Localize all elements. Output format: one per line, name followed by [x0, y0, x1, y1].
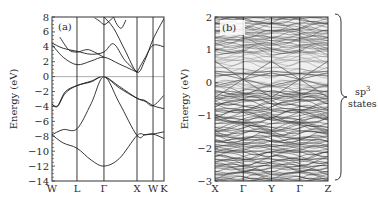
band-line [215, 12, 328, 15]
panel-a-kpoint-lines [77, 17, 153, 181]
kpoint-label: Γ [240, 183, 247, 194]
panel-a-y-ticks: 86420−2−4−6−8−10−12−14 [28, 12, 55, 187]
panel-b-band-structure: 210−1−2−3 XΓYΓZ (b) Energy (eV) [179, 12, 332, 195]
kpoint-label: K [160, 183, 168, 194]
band-line [114, 17, 126, 28]
kpoint-label: X [211, 183, 219, 194]
panel-a-y-axis-title: Energy (eV) [8, 69, 19, 130]
y-tick-label: 1 [206, 44, 212, 55]
kpoint-label: Γ [100, 183, 107, 194]
sp3-label: sp3 [355, 85, 370, 97]
y-tick-label: −2 [197, 143, 212, 154]
y-tick-label: −3 [197, 176, 212, 187]
panel-a-bands [52, 17, 164, 166]
y-tick-label: −12 [28, 161, 49, 172]
y-tick-label: 2 [206, 12, 212, 23]
y-tick-label: −1 [197, 110, 212, 121]
panel-a-kpoint-labels: WLΓXWK [47, 183, 168, 194]
y-tick-label: 6 [43, 26, 49, 37]
y-tick-label: −14 [28, 176, 49, 187]
panel-b-y-axis-title: Energy (eV) [179, 69, 190, 130]
y-tick-label: 8 [43, 12, 49, 23]
panel-a-label: (a) [58, 21, 72, 32]
kpoint-label: W [148, 183, 159, 194]
y-tick-label: −10 [28, 146, 49, 157]
kpoint-label: L [74, 183, 81, 194]
curly-brace [335, 14, 347, 180]
y-tick-label: −8 [34, 131, 49, 142]
kpoint-label: Y [267, 183, 275, 194]
kpoint-label: Z [325, 183, 332, 194]
band-line [52, 43, 137, 72]
band-line [137, 45, 164, 72]
sp3-states-annotation: sp3 states [335, 14, 377, 180]
y-tick-label: 0 [43, 71, 49, 82]
panel-a-band-structure: 86420−2−4−6−8−10−12−14 WLΓXWK (a) Energy… [8, 12, 168, 195]
band-line [52, 77, 164, 109]
states-label: states [348, 98, 377, 109]
kpoint-label: X [133, 183, 141, 194]
panel-b-label: (b) [222, 22, 236, 33]
panel-b-kpoint-labels: XΓYΓZ [211, 183, 331, 194]
band-structure-figure: 86420−2−4−6−8−10−12−14 WLΓXWK (a) Energy… [0, 0, 378, 207]
y-tick-label: 4 [43, 41, 49, 52]
y-tick-label: −2 [34, 86, 49, 97]
band-line [52, 134, 164, 166]
kpoint-label: Γ [296, 183, 303, 194]
y-tick-label: −4 [34, 101, 49, 112]
kpoint-label: W [47, 183, 58, 194]
y-tick-label: 2 [43, 56, 49, 67]
panel-a-frame [52, 17, 164, 181]
band-line [52, 77, 164, 138]
y-tick-label: 0 [206, 77, 212, 88]
y-tick-label: −6 [34, 116, 49, 127]
